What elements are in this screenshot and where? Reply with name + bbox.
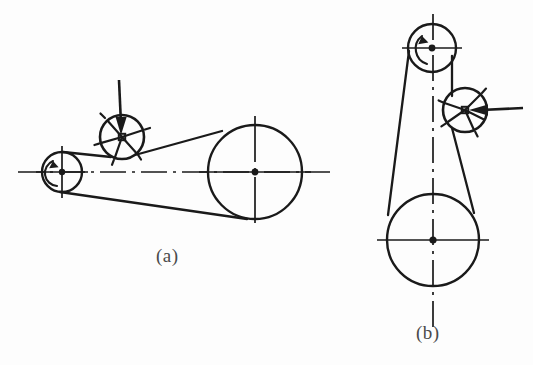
belt-drive-diagram bbox=[0, 0, 533, 365]
figure-container: (a) (b) bbox=[0, 0, 533, 365]
belt-upper-run-a-seg2 bbox=[135, 131, 222, 155]
driven-pulley-a-hub bbox=[252, 169, 259, 176]
caption-a: (a) bbox=[156, 245, 179, 267]
idler-force-arrow-a bbox=[116, 80, 127, 135]
diagram-a-group bbox=[18, 80, 330, 228]
driving-pulley-a-hub bbox=[59, 169, 65, 175]
driven-pulley-b-hub bbox=[429, 236, 436, 243]
caption-b: (b) bbox=[416, 322, 440, 344]
belt-left-run-b bbox=[388, 51, 409, 215]
driving-pulley-b-hub bbox=[429, 45, 436, 52]
idler-force-arrow-b bbox=[469, 105, 523, 116]
belt-lower-run-a bbox=[60, 192, 247, 219]
diagram-b-group bbox=[377, 14, 523, 330]
